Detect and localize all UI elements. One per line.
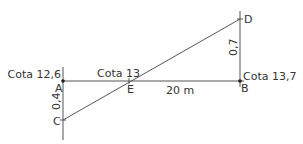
point-b-label: B xyxy=(241,82,249,95)
cota-a-label: Cota 12,6 xyxy=(8,68,61,81)
line-cd xyxy=(63,19,240,120)
point-e-label: E xyxy=(127,83,134,96)
cota-b-label: Cota 13,7 xyxy=(243,70,296,83)
point-d-label: D xyxy=(244,13,252,26)
cota-e-label: Cota 13 xyxy=(97,67,140,80)
height-bd-label: 0,7 xyxy=(227,39,240,57)
distance-ab-label: 20 m xyxy=(166,84,194,97)
height-ac-label: 0,4 xyxy=(50,93,63,111)
point-c-label: C xyxy=(53,115,61,128)
contour-interpolation-diagram: Cota 12,6 Cota 13 Cota 13,7 20 m A B C D… xyxy=(0,0,303,144)
